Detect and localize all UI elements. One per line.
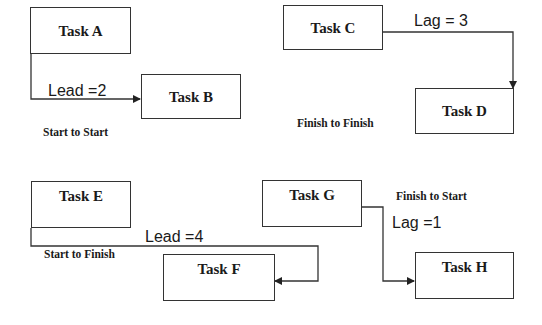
task-e-box: Task E <box>31 181 131 228</box>
dependency-diagram: Task A Task B Task C Task D Task E Task … <box>0 0 542 325</box>
finish-to-start-label: Finish to Start <box>396 190 467 202</box>
task-c-label: Task C <box>284 19 382 36</box>
start-to-finish-label: Start to Finish <box>44 248 115 260</box>
task-d-label: Task D <box>416 103 513 120</box>
task-g-label: Task G <box>263 181 361 204</box>
lag-1-label: Lag =1 <box>392 215 441 231</box>
task-b-box: Task B <box>141 74 241 119</box>
task-h-box: Task H <box>415 252 514 299</box>
lead-2-label: Lead =2 <box>48 83 106 99</box>
task-f-label: Task F <box>164 255 274 278</box>
finish-to-finish-label: Finish to Finish <box>297 117 374 129</box>
task-b-label: Task B <box>142 88 240 105</box>
task-f-box: Task F <box>163 254 275 301</box>
start-to-start-label: Start to Start <box>43 126 108 138</box>
task-d-box: Task D <box>415 88 514 134</box>
lead-4-label: Lead =4 <box>145 229 203 245</box>
task-h-label: Task H <box>416 253 513 276</box>
task-c-box: Task C <box>283 5 383 50</box>
task-a-label: Task A <box>31 22 130 39</box>
task-a-box: Task A <box>30 7 131 54</box>
connector-c-to-d <box>383 32 513 88</box>
lag-3-label: Lag = 3 <box>414 13 468 29</box>
task-g-box: Task G <box>262 180 362 227</box>
task-e-label: Task E <box>32 182 130 205</box>
